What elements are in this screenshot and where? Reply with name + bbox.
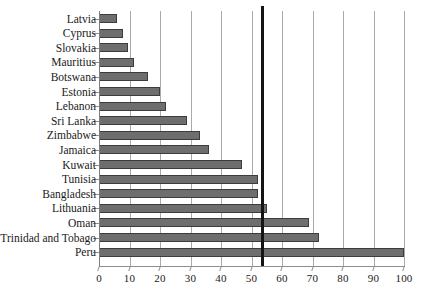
bar-kuwait: [99, 160, 242, 169]
bar-zimbabwe: [99, 131, 200, 140]
x-tick-label-70: 70: [298, 272, 328, 284]
gridline-90: [374, 11, 375, 266]
bar-sri-lanka: [99, 116, 187, 125]
reference-line: [261, 6, 264, 266]
x-tick-label-60: 60: [267, 272, 297, 284]
bar-estonia: [99, 87, 160, 96]
x-tick-40: [219, 266, 222, 271]
category-label-oman: Oman: [0, 217, 96, 229]
category-label-trinidad-and-tobago: Trinidad and Tobago: [0, 232, 96, 244]
x-tick-label-20: 20: [145, 272, 175, 284]
bar-chart: 0102030405060708090100 LatviaCyprusSlova…: [0, 0, 429, 292]
category-label-mauritius: Mauritius: [0, 56, 96, 68]
category-label-estonia: Estonia: [0, 86, 96, 98]
category-label-cyprus: Cyprus: [0, 27, 96, 39]
category-label-botswana: Botswana: [0, 71, 96, 83]
category-label-bangladesh: Bangladesh: [0, 188, 96, 200]
bar-latvia: [99, 14, 117, 23]
bar-bangladesh: [99, 189, 258, 198]
bar-botswana: [99, 72, 148, 81]
bar-lebanon: [99, 102, 166, 111]
gridline-60: [282, 11, 283, 266]
x-tick-label-50: 50: [237, 272, 267, 284]
x-tick-label-30: 30: [176, 272, 206, 284]
x-tick-label-90: 90: [359, 272, 389, 284]
x-tick-label-100: 100: [389, 272, 419, 284]
x-tick-0: [97, 266, 100, 271]
category-label-zimbabwe: Zimbabwe: [0, 129, 96, 141]
gridline-40: [221, 11, 222, 266]
category-label-tunisia: Tunisia: [0, 173, 96, 185]
gridline-70: [313, 11, 314, 266]
category-label-slovakia: Slovakia: [0, 42, 96, 54]
category-label-jamaica: Jamaica: [0, 144, 96, 156]
bar-peru: [99, 248, 404, 257]
x-tick-label-40: 40: [206, 272, 236, 284]
bar-oman: [99, 218, 309, 227]
x-tick-100: [402, 266, 405, 271]
category-label-kuwait: Kuwait: [0, 159, 96, 171]
category-label-latvia: Latvia: [0, 13, 96, 25]
x-tick-60: [280, 266, 283, 271]
bar-tunisia: [99, 175, 258, 184]
y-axis-line: [99, 11, 100, 267]
x-tick-label-80: 80: [328, 272, 358, 284]
bar-lithuania: [99, 204, 267, 213]
x-tick-20: [158, 266, 161, 271]
category-label-lebanon: Lebanon: [0, 100, 96, 112]
bar-trinidad-and-tobago: [99, 233, 319, 242]
category-label-lithuania: Lithuania: [0, 202, 96, 214]
x-tick-label-10: 10: [115, 272, 145, 284]
plot-area: [99, 11, 404, 266]
bar-slovakia: [99, 43, 128, 52]
bar-cyprus: [99, 29, 123, 38]
gridline-50: [252, 11, 253, 266]
bar-mauritius: [99, 58, 134, 67]
x-tick-label-0: 0: [84, 272, 114, 284]
gridline-80: [343, 11, 344, 266]
category-label-peru: Peru: [0, 246, 96, 258]
bar-jamaica: [99, 145, 209, 154]
category-label-sri-lanka: Sri Lanka: [0, 115, 96, 127]
gridline-100: [404, 11, 405, 266]
x-tick-80: [341, 266, 344, 271]
